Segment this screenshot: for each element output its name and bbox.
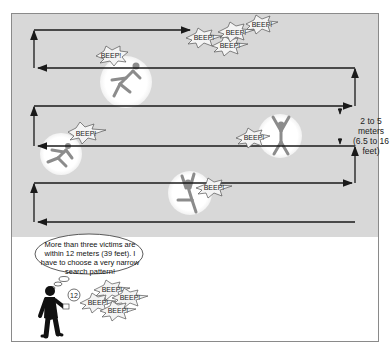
rescuer-figure-icon (40, 286, 64, 336)
beep-label: BEEP! (101, 52, 122, 59)
svg-text:BEEP!: BEEP! (220, 42, 241, 49)
svg-text:BEEP!: BEEP! (88, 299, 109, 306)
victim-2 (40, 133, 82, 175)
spacing-label-meters: 2 to 5 meters (352, 116, 390, 136)
search-pattern-diagram: BEEP! BEEP! BEEP! BEEP! BEEP! BEEP! BEEP… (0, 0, 391, 350)
beep-cluster-top: BEEP! BEEP! BEEP! BEEP! (186, 15, 278, 56)
svg-text:BEEP!: BEEP! (226, 29, 247, 36)
svg-text:BEEP!: BEEP! (252, 21, 273, 28)
detector-device-icon: 12 (63, 289, 80, 309)
speech-bubble-text: More than three victims are within 12 me… (38, 240, 142, 276)
victim-1 (100, 56, 152, 108)
device-reading: 12 (70, 292, 78, 299)
svg-text:BEEP!: BEEP! (194, 34, 215, 41)
beep-label: BEEP! (204, 184, 225, 191)
svg-text:BEEP!: BEEP! (108, 307, 129, 314)
spacing-label: 2 to 5 meters (6.5 to 16 feet) (352, 116, 390, 156)
spacing-label-feet: (6.5 to 16 feet) (352, 136, 390, 156)
beep-label: BEEP! (76, 130, 97, 137)
svg-text:BEEP!: BEEP! (120, 294, 141, 301)
beep-label: BEEP! (244, 134, 265, 141)
beep-cluster-rescuer: BEEP! BEEP! BEEP! BEEP! (80, 280, 148, 321)
svg-text:BEEP!: BEEP! (102, 286, 123, 293)
